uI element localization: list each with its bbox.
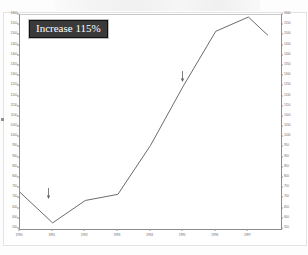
x-tick-label: 1994	[146, 233, 153, 237]
y-tick-label: 1600	[11, 12, 17, 15]
y-tick-label: 900	[284, 155, 289, 158]
y-tick-label: 1350	[11, 63, 17, 66]
y-tick-label: 800	[284, 176, 289, 179]
x-tick-label: 1992	[81, 233, 88, 237]
y-tick-label: 900	[12, 155, 17, 158]
y-tick-label: 850	[12, 165, 17, 168]
y-tick-label: 550	[284, 226, 289, 229]
y-tick-label: 1100	[11, 114, 17, 117]
x-tick-label: 1997	[244, 233, 251, 237]
arrow-marker-2-icon	[180, 71, 185, 82]
x-tick-label: 1990	[16, 233, 23, 237]
y-tick-label: 650	[12, 206, 17, 209]
x-tick-mark	[51, 229, 52, 231]
y-tick-label: 600	[284, 216, 289, 219]
data-line-series	[20, 15, 281, 229]
x-tick-mark	[84, 229, 85, 231]
chart-title-band	[55, 0, 260, 11]
y-tick-label: 1250	[11, 84, 17, 87]
y-tick-label: 1200	[11, 94, 17, 97]
y-tick-label: 700	[284, 196, 289, 199]
x-tick-label: 1993	[113, 233, 120, 237]
x-tick-label: 1995	[179, 233, 186, 237]
y-tick-label: 1500	[11, 33, 17, 36]
x-tick-label: 1991	[48, 233, 55, 237]
x-tick-label: 1996	[211, 233, 218, 237]
chart-page: 1600155015001450140013501300125012001150…	[0, 0, 308, 255]
y-tick-label: 950	[12, 145, 17, 148]
x-tick-mark	[247, 229, 248, 231]
y-tick-label: 1100	[284, 114, 290, 117]
y-tick-label: 1050	[284, 125, 290, 128]
y-axis-left: 1600155015001450140013501300125012001150…	[1, 14, 19, 228]
x-tick-mark	[19, 229, 20, 231]
y-tick-label: 1400	[284, 53, 290, 56]
y-tick-label: 1600	[284, 12, 290, 15]
y-tick-label: 1000	[284, 135, 290, 138]
increase-callout: Increase 115%	[29, 20, 108, 38]
arrow-down-icon	[46, 188, 51, 199]
x-tick-mark	[116, 229, 117, 231]
plot-inner	[20, 15, 281, 229]
y-tick-label: 1450	[284, 43, 290, 46]
chart-title	[55, 0, 260, 11]
y-tick-label: 1000	[11, 135, 17, 138]
arrow-marker-1-icon	[46, 188, 51, 199]
x-tick-mark	[214, 229, 215, 231]
y-tick-label: 1200	[284, 94, 290, 97]
y-tick-label: 750	[12, 186, 17, 189]
y-tick-label: 750	[284, 186, 289, 189]
x-axis: 19901991199219931994199519961997	[19, 229, 280, 243]
y-tick-label: 1300	[284, 74, 290, 77]
x-tick-mark	[149, 229, 150, 231]
y-tick-label: 700	[12, 196, 17, 199]
y-tick-label: 1450	[11, 43, 17, 46]
y-tick-label: 1550	[11, 23, 17, 26]
y-tick-label: 600	[12, 216, 17, 219]
y-tick-label: 1150	[11, 104, 17, 107]
y-tick-label: 950	[284, 145, 289, 148]
y-tick-label: 1350	[284, 63, 290, 66]
y-tick-label: 550	[12, 226, 17, 229]
y-tick-label: 1050	[11, 125, 17, 128]
y-tick-label: 1550	[284, 23, 290, 26]
y-tick-label: 1250	[284, 84, 290, 87]
arrow-down-icon	[180, 71, 185, 82]
y-tick-label: 1300	[11, 74, 17, 77]
y-tick-label: 1150	[284, 104, 290, 107]
x-tick-mark	[182, 229, 183, 231]
y-tick-label: 650	[284, 206, 289, 209]
y-tick-label: 850	[284, 165, 289, 168]
y-tick-label: 1400	[11, 53, 17, 56]
y-tick-label: 1500	[284, 33, 290, 36]
y-axis-right: 1600155015001450140013501300125012001150…	[281, 14, 299, 228]
y-tick-label: 800	[12, 176, 17, 179]
plot-area	[19, 14, 282, 230]
